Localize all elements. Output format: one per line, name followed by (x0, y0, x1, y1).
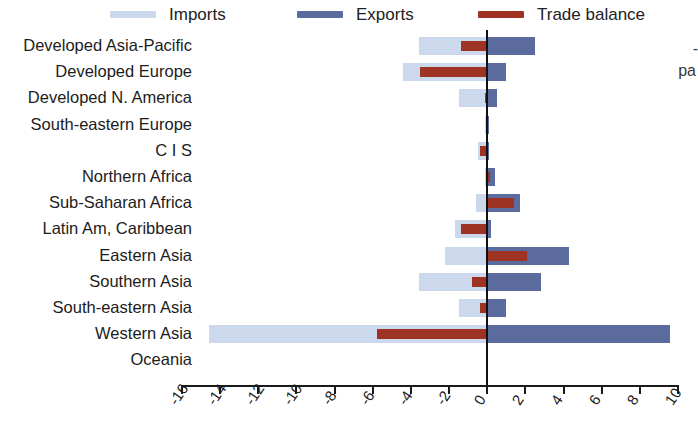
value-axis: -16-14-12-10-8-6-4-20246810 (0, 385, 698, 444)
legend-item-exports[interactable]: Exports (297, 0, 414, 28)
axis-tick-label: 4 (548, 392, 565, 407)
axis-tick-label: 6 (586, 392, 603, 407)
bar-exports (487, 273, 540, 291)
axis-tick (639, 385, 641, 394)
bar-exports (487, 37, 535, 55)
legend-swatch-imports (110, 11, 156, 18)
axis-tick (524, 385, 526, 394)
axis-tick-label: 10 (662, 385, 684, 407)
bar-trade-balance (377, 329, 488, 339)
bar-trade-balance (487, 251, 527, 261)
chart-legend: Imports Exports Trade balance (0, 0, 698, 28)
bar-exports (487, 89, 497, 107)
axis-tick (601, 385, 603, 394)
edge-text-fragment-1: - (693, 40, 698, 58)
bars-container (0, 30, 698, 385)
legend-label-trade-balance: Trade balance (537, 6, 645, 23)
bar-trade-balance (472, 277, 487, 287)
legend-item-imports[interactable]: Imports (110, 0, 226, 28)
bar-trade-balance (461, 224, 488, 234)
axis-tick (563, 385, 565, 394)
bar-imports (459, 89, 488, 107)
plot-area: Developed Asia-PacificDeveloped EuropeDe… (0, 30, 698, 385)
legend-label-exports: Exports (356, 6, 414, 23)
bar-imports (445, 247, 487, 265)
axis-tick-label: 0 (471, 392, 488, 407)
bar-exports (487, 299, 506, 317)
axis-tick (486, 385, 488, 394)
edge-text-fragment-2: pa (678, 62, 696, 80)
legend-swatch-trade-balance (478, 11, 524, 18)
legend-swatch-exports (297, 11, 343, 18)
axis-tick-label: 8 (624, 392, 641, 407)
legend-label-imports: Imports (169, 6, 226, 23)
bar-trade-balance (487, 198, 514, 208)
zero-reference-line (486, 30, 488, 390)
trade-bar-chart: Imports Exports Trade balance Developed … (0, 0, 698, 444)
bar-exports (487, 63, 506, 81)
bar-trade-balance (420, 67, 487, 77)
legend-item-trade-balance[interactable]: Trade balance (478, 0, 645, 28)
bar-exports (487, 325, 670, 343)
bar-trade-balance (461, 41, 488, 51)
axis-tick-label: 2 (509, 392, 526, 407)
